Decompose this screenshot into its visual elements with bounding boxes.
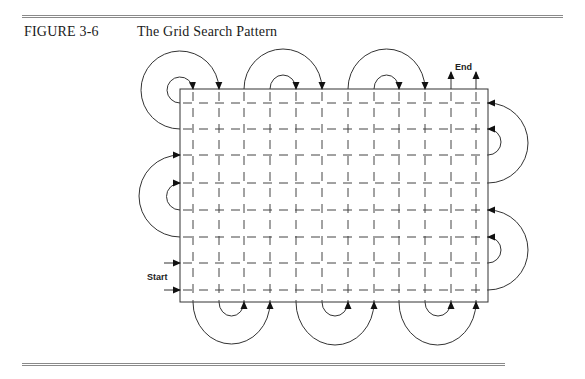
turn-arc-left-small — [167, 183, 181, 210]
turn-arc-bottom-2-small — [322, 302, 348, 316]
turn-arc-bottom-3-small — [425, 302, 451, 316]
turn-arc-right-1-small — [488, 129, 501, 155]
turn-arc-bottom-1-small — [219, 302, 244, 316]
end-label: End — [455, 62, 472, 72]
turn-arc-right-2-small — [488, 237, 501, 263]
turn-arc-top-2-large — [244, 49, 322, 89]
vertical-track-lines — [193, 92, 476, 302]
horizontal-track-lines — [183, 103, 488, 290]
turn-arc-left-large — [139, 155, 180, 237]
turn-arc-top-3-small — [374, 75, 399, 89]
turn-arc-bottom-2-large — [296, 302, 374, 345]
bottom-rule — [22, 363, 505, 366]
turn-arc-right-2-large — [488, 210, 528, 290]
start-label: Start — [147, 272, 168, 282]
turn-arc-top-2-small — [270, 75, 296, 89]
turn-arc-top-3-large — [348, 49, 425, 89]
search-area-boundary — [180, 89, 488, 302]
turn-arc-right-1-large — [488, 103, 528, 183]
turn-arc-bottom-1-large — [193, 302, 270, 344]
turn-arc-bottom-3-large — [399, 302, 476, 345]
grid-search-diagram: Start End — [0, 0, 585, 379]
